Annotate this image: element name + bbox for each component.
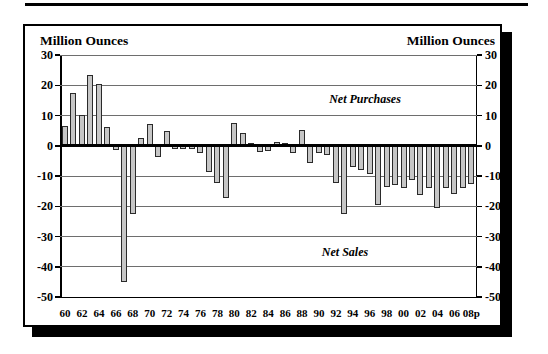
bar-1960 — [62, 126, 68, 146]
right-ylabel--20: -20 — [485, 200, 501, 212]
right-ytick--40 — [477, 266, 482, 268]
right-ylabel--50: -50 — [485, 291, 501, 303]
left-ylabel-0: 0 — [25, 140, 53, 152]
bar-1970 — [147, 124, 153, 146]
bar-1977 — [206, 146, 212, 173]
bar-2001 — [409, 146, 415, 180]
bar-2002 — [417, 146, 423, 196]
left-ytick--10 — [55, 175, 60, 177]
right-ylabel-30: 30 — [485, 49, 497, 61]
bar-2005 — [443, 146, 449, 188]
gridline-20 — [60, 85, 477, 86]
left-ytick-20 — [55, 85, 60, 87]
bar-1995 — [358, 146, 364, 170]
right-ytick-10 — [477, 115, 482, 117]
left-ytick-0 — [55, 145, 60, 147]
left-ylabel-10: 10 — [25, 110, 53, 122]
gridline-30 — [60, 55, 477, 56]
chart-figure: Million Ounces Million Ounces Net Purcha… — [0, 0, 548, 354]
left-ylabel--10: -10 — [25, 170, 53, 182]
top-rule — [25, 3, 528, 6]
bar-1978 — [214, 146, 220, 183]
right-ylabel-0: 0 — [485, 140, 491, 152]
left-ytick-30 — [55, 54, 60, 56]
bar-1992 — [333, 146, 339, 183]
bar-1998 — [384, 146, 390, 187]
bar-1994 — [350, 146, 356, 167]
right-ylabel--10: -10 — [485, 170, 501, 182]
bar-2006 — [451, 146, 457, 194]
left-ylabel--20: -20 — [25, 200, 53, 212]
bar-1967 — [121, 146, 127, 282]
y-axis-title-left: Million Ounces — [40, 33, 128, 49]
left-ytick-10 — [55, 115, 60, 117]
right-ytick--10 — [477, 175, 482, 177]
left-ytick--50 — [55, 296, 60, 298]
bar-1996 — [367, 146, 373, 174]
right-ylabel-10: 10 — [485, 110, 497, 122]
bar-2000 — [401, 146, 407, 188]
left-ylabel-30: 30 — [25, 49, 53, 61]
x-axis-bottom-line — [60, 297, 477, 299]
right-ytick-0 — [477, 145, 482, 147]
bar-2007 — [460, 146, 466, 188]
zero-baseline — [60, 144, 477, 147]
left-ytick--30 — [55, 236, 60, 238]
right-ytick--20 — [477, 206, 482, 208]
right-ytick--50 — [477, 296, 482, 298]
y-axis-title-right: Million Ounces — [407, 33, 495, 49]
right-ytick-20 — [477, 85, 482, 87]
left-ylabel--30: -30 — [25, 231, 53, 243]
bar-1999 — [392, 146, 398, 185]
right-ylabel--40: -40 — [485, 261, 501, 273]
bar-1993 — [341, 146, 347, 214]
right-ylabel--30: -30 — [485, 231, 501, 243]
bar-1971 — [155, 146, 161, 157]
right-ytick--30 — [477, 236, 482, 238]
bar-1961 — [70, 93, 76, 145]
bar-2008 — [468, 146, 474, 185]
left-ylabel--50: -50 — [25, 291, 53, 303]
left-ylabel-20: 20 — [25, 79, 53, 91]
bar-1989 — [307, 146, 313, 164]
bar-1962 — [79, 115, 85, 146]
right-ylabel-20: 20 — [485, 79, 497, 91]
left-ytick--40 — [55, 266, 60, 268]
net-purchases-label: Net Purchases — [275, 92, 455, 107]
net-sales-label: Net Sales — [255, 245, 435, 260]
bar-1980 — [231, 123, 237, 145]
bar-1997 — [375, 146, 381, 205]
right-ytick-30 — [477, 54, 482, 56]
chart-frame: Million Ounces Million Ounces Net Purcha… — [23, 24, 502, 327]
gridline-10 — [60, 115, 477, 116]
left-ytick--20 — [55, 206, 60, 208]
bar-1979 — [223, 146, 229, 199]
bar-1965 — [104, 127, 110, 146]
bar-2003 — [426, 146, 432, 188]
left-ylabel--40: -40 — [25, 261, 53, 273]
bar-1963 — [87, 75, 93, 146]
xlabel-08p: 08p — [459, 307, 483, 319]
bar-1964 — [96, 84, 102, 145]
bar-2004 — [434, 146, 440, 208]
bar-1968 — [130, 146, 136, 214]
